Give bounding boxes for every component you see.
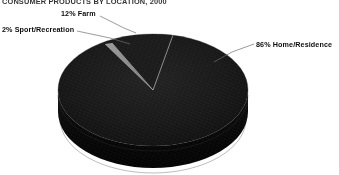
- slice-label-home-residence: 86% Home/Residence: [256, 40, 332, 49]
- slice-label-sport-recreation: 2% Sport/Recreation: [2, 25, 74, 34]
- slice-label-farm: 12% Farm: [61, 9, 96, 18]
- leader-line-farm: [100, 16, 136, 33]
- pie-chart-figure: CONSUMER PRODUCTS BY LOCATION, 2000: [0, 0, 339, 175]
